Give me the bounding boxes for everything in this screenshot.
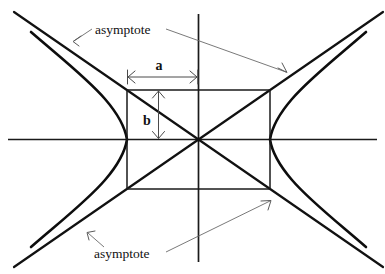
figure-canvas: a b asymptote asymptote	[0, 0, 385, 274]
asymptote-annotation-top: asymptote	[73, 22, 287, 73]
dimension-a-group: a	[128, 58, 198, 84]
hyperbola-diagram: a b asymptote asymptote	[0, 0, 385, 274]
asymptote-bottom-right-arrowhead	[261, 201, 271, 211]
asymptote-annotation-bottom: asymptote	[87, 201, 271, 262]
asymptote-top-right-leader	[166, 29, 286, 72]
asymptote-label-bottom: asymptote	[94, 246, 150, 261]
label-semi-axis-a: a	[156, 58, 163, 73]
label-semi-axis-b: b	[143, 113, 151, 128]
asymptote-bottom-left-leader	[88, 233, 104, 247]
asymptote-label-top: asymptote	[95, 22, 151, 37]
asymptote-bottom-right-leader	[166, 201, 270, 252]
